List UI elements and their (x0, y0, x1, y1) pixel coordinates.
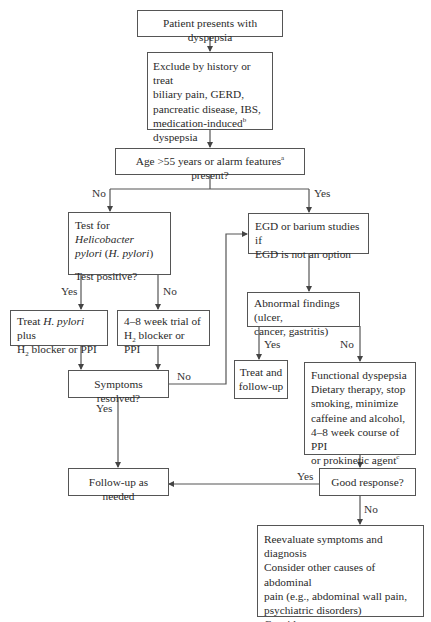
node-good-response: Good response? (319, 468, 416, 496)
node-abnormal-findings: Abnormal findings (ulcer, cancer, gastri… (247, 292, 360, 327)
node-egd-barium: EGD or barium studies if EGD is not an o… (248, 213, 369, 254)
node-patient-presents: Patient presents with dyspepsia (137, 10, 283, 37)
node-symptoms-resolved: Symptoms resolved? (68, 370, 169, 398)
node-treat-followup: Treat and follow-up (234, 360, 288, 399)
node-line: biliary pain, GERD, (153, 87, 266, 101)
edge-label-test-yes: Yes (61, 285, 77, 298)
edge-label-abnormal-yes: Yes (264, 338, 280, 351)
node-hpylori-test: Test for Helicobacter pylori (H. pylori)… (68, 212, 171, 275)
edge-label-response-yes: Yes (297, 470, 313, 483)
edge-label-symptoms-no: No (177, 370, 191, 383)
edge-label-symptoms-yes: Yes (96, 402, 112, 415)
node-functional-dyspepsia: Functional dyspepsia Dietary therapy, st… (304, 362, 416, 455)
node-exclude-causes: Exclude by history or treat biliary pain… (147, 52, 273, 130)
edge-label-age-yes: Yes (314, 187, 330, 200)
node-line: Exclude by history or treat (153, 59, 266, 87)
node-followup-as-needed: Follow-up as needed (68, 468, 169, 496)
node-line: pancreatic disease, IBS, (153, 102, 266, 116)
node-trial-h2-ppi: 4–8 week trial of H2 blocker or PPI (117, 310, 210, 346)
edge-label-test-no: No (163, 285, 177, 298)
node-age-alarm-check: Age >55 years or alarm featuresa present… (115, 148, 305, 175)
node-line: dyspepsia (153, 130, 266, 144)
node-treat-hpylori: Treat H. pylori plus H2 blocker or PPI (10, 310, 108, 346)
edge-label-response-no: No (364, 503, 378, 516)
edge-label-age-no: No (92, 187, 106, 200)
footnote-a: a (281, 154, 284, 162)
edge-label-abnormal-no: No (340, 338, 354, 351)
node-line: medication-inducedb (153, 116, 266, 130)
footnote-b: b (243, 116, 247, 124)
footnote-c: c (396, 453, 399, 461)
node-reevaluate: Reevaluate symptoms and diagnosis Consid… (257, 525, 424, 617)
